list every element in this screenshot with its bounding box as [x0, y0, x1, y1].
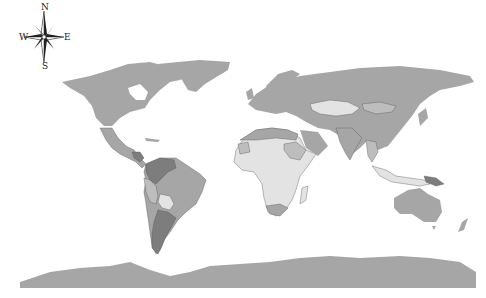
compass-west-label: W — [19, 32, 28, 42]
north-africa-band — [240, 128, 298, 140]
cuba — [145, 138, 160, 142]
australia — [394, 188, 442, 222]
madagascar — [300, 186, 308, 204]
mauritania — [238, 142, 250, 154]
compass-rose-icon — [24, 11, 64, 63]
world-map — [0, 0, 486, 298]
japan — [418, 108, 428, 126]
uk — [246, 88, 254, 100]
north-america-landmass — [62, 62, 185, 126]
central-america — [100, 128, 146, 168]
antarctica — [20, 256, 476, 288]
new-zealand — [458, 218, 468, 232]
indonesia — [372, 166, 430, 186]
argentina — [152, 210, 176, 254]
compass-east-label: E — [64, 32, 71, 42]
southeast-asia — [366, 140, 378, 162]
compass-south-label: S — [42, 61, 48, 71]
tasmania — [432, 226, 436, 230]
compass-north-label: N — [41, 2, 49, 12]
africa-landmass — [234, 128, 316, 216]
